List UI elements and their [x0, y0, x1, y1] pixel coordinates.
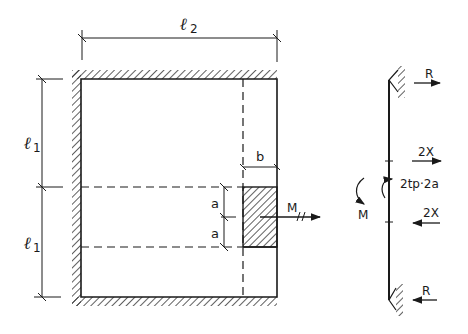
label-l1-lower: ℓ	[24, 233, 31, 253]
dimension-b: b	[240, 149, 280, 170]
label-2tp-2a: 2tp·2a	[400, 177, 439, 191]
label-l1-upper-subscript: 1	[33, 141, 41, 155]
label-l1-lower-subscript: 1	[33, 241, 41, 255]
hatched-left-edge	[72, 70, 81, 306]
distributed-moment-arc	[382, 179, 392, 198]
label-l2-subscript: 2	[190, 22, 198, 36]
bottom-support-hatch	[396, 284, 403, 316]
label-2X-upper: 2X	[418, 145, 434, 159]
label-a-upper: a	[211, 196, 219, 211]
dimension-l2: ℓ 2	[78, 14, 281, 62]
hatched-bottom-edge	[72, 297, 277, 306]
label-M-side: M	[358, 208, 368, 222]
top-support-triangle	[389, 70, 398, 92]
label-b: b	[256, 149, 264, 164]
label-2X-lower: 2X	[423, 206, 439, 220]
plate-view: ℓ 2 ℓ 1 ℓ 1 b	[24, 14, 320, 306]
side-view: R 2X 2tp·2a M 2X R	[356, 66, 441, 316]
top-support-hatch	[398, 66, 405, 98]
dimension-l1: ℓ 1 ℓ 1	[24, 75, 63, 301]
label-R-top: R	[425, 67, 433, 81]
bottom-support-triangle	[389, 288, 396, 310]
label-l2: ℓ	[180, 14, 187, 34]
dimension-a: a a	[211, 183, 236, 251]
label-l1-upper: ℓ	[24, 133, 31, 153]
diagram-canvas: ℓ 2 ℓ 1 ℓ 1 b	[0, 0, 468, 334]
hatched-top-edge	[72, 70, 277, 79]
label-a-lower: a	[211, 226, 219, 241]
label-M-plate: M	[287, 201, 297, 215]
label-R-bottom: R	[422, 284, 430, 298]
moment-arc-M	[356, 178, 364, 204]
